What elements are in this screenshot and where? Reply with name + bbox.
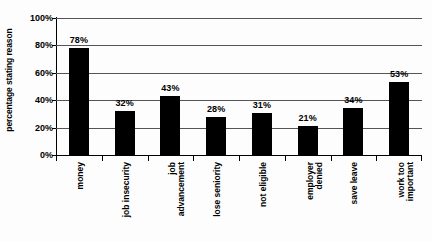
x-axis-tick-mark [148,156,149,161]
bar-slot: 34% [331,18,377,155]
bar-value-label: 34% [344,95,362,105]
bar[interactable] [343,108,363,155]
bar-slot: 53% [376,18,422,155]
x-axis-tick-label-line: lose seniority [213,162,223,217]
x-axis-tick-label: jobadvancement [170,162,184,240]
bar-slot: 32% [102,18,148,155]
bar-value-label: 32% [116,98,134,108]
bar[interactable] [389,82,409,155]
y-axis-title: percentage stating reason [0,0,18,160]
plot-area: 78%32%43%28%31%21%34%53% [56,18,422,155]
bars-layer: 78%32%43%28%31%21%34%53% [56,18,422,155]
x-axis-tick-label: not eligible [257,162,271,240]
y-axis-tick-label: 60% [35,68,53,78]
x-axis-tick-labels: moneyjob insecurityjobadvancementlose se… [56,162,422,242]
y-axis-tick-labels: 0%20%40%60%80%100% [18,13,56,155]
bar-value-label: 43% [161,83,179,93]
bar[interactable] [252,113,272,155]
y-axis-tick-label: 40% [35,95,53,105]
bar[interactable] [160,96,180,155]
bar-value-label: 31% [253,100,271,110]
x-axis-tick-mark [239,156,240,161]
x-axis-tick-label-line: not eligible [259,162,269,207]
y-axis-tick-label: 20% [35,123,53,133]
x-axis-tick-mark [193,156,194,161]
y-axis-tick-label: 80% [35,40,53,50]
x-axis-tick-label-line: job insecurity [122,162,132,217]
bar[interactable] [69,48,89,155]
x-axis-tick-label-line: money [76,162,86,189]
bar-value-label: 78% [70,35,88,45]
x-axis-tick-label: work tooimportant [399,162,413,240]
x-axis-tick-label: lose seniority [211,162,225,240]
x-axis-tick-label: save leave [348,162,362,240]
bar[interactable] [115,111,135,155]
x-axis-ticks [56,156,422,161]
y-axis-tick-label: 100% [30,13,53,23]
x-axis-tick-label-line: save leave [351,162,361,205]
x-axis-tick-label-line: advancement [177,162,187,216]
x-axis-tick-mark [331,156,332,161]
bar-value-label: 21% [299,113,317,123]
x-axis-tick-mark [56,156,57,161]
x-axis-tick-label-line: important [406,162,416,201]
bar-slot: 21% [285,18,331,155]
bar-slot: 43% [148,18,194,155]
bar-chart: percentage stating reason 0%20%40%60%80%… [0,0,432,242]
x-axis-tick-label-line: denied [315,162,325,189]
x-axis-tick-mark [376,156,377,161]
bar[interactable] [298,126,318,155]
bar-slot: 31% [239,18,285,155]
x-axis-tick-label: employerdenied [308,162,322,240]
bar[interactable] [206,117,226,155]
bar-value-label: 28% [207,104,225,114]
x-axis-tick-mark [102,156,103,161]
bar-value-label: 53% [390,69,408,79]
bar-slot: 78% [56,18,102,155]
x-axis-tick-mark [285,156,286,161]
bar-slot: 28% [193,18,239,155]
x-axis-tick-label: money [74,162,88,240]
x-axis-tick-mark [421,156,422,161]
y-axis-title-text: percentage stating reason [4,28,14,131]
x-axis-tick-label: job insecurity [120,162,134,240]
